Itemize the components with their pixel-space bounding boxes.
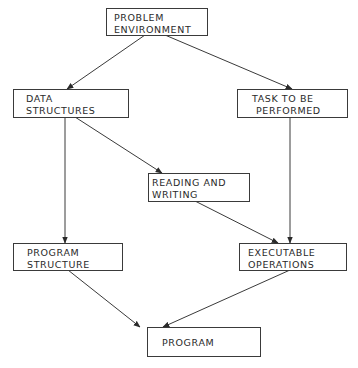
- edge-reading-writing-to-executable-operations: [195, 201, 278, 243]
- node-label-line: EXECUTABLE: [248, 247, 346, 259]
- node-label-line: READING AND: [152, 177, 249, 189]
- node-reading-and-writing: READING AND WRITING: [148, 173, 250, 202]
- edge-program-structure-to-program: [68, 270, 140, 327]
- node-program-structure: PROGRAM STRUCTURE: [13, 243, 123, 271]
- edge-data-structures-to-reading-writing: [75, 117, 162, 173]
- node-label-line: ENVIRONMENT: [114, 24, 207, 36]
- edge-problem-environment-to-data-structures: [67, 35, 145, 89]
- node-label-line: WRITING: [152, 189, 249, 201]
- node-label-line: PROGRAM: [162, 337, 260, 349]
- node-data-structures: DATA STRUCTURES: [13, 89, 129, 118]
- node-label-line: PROBLEM: [114, 12, 207, 24]
- node-executable-operations: EXECUTABLE OPERATIONS: [239, 243, 347, 271]
- node-label-line: PROGRAM: [27, 247, 122, 259]
- flowchart-canvas: PROBLEM ENVIRONMENT DATA STRUCTURES TASK…: [0, 0, 358, 368]
- node-program: PROGRAM: [147, 327, 261, 357]
- node-label-line: PERFORMED: [252, 105, 347, 117]
- node-label-line: STRUCTURE: [27, 259, 122, 271]
- edge-executable-operations-to-program: [163, 270, 290, 327]
- node-problem-environment: PROBLEM ENVIRONMENT: [106, 8, 208, 36]
- node-label-line: STRUCTURES: [26, 105, 128, 117]
- node-label-line: OPERATIONS: [248, 259, 346, 271]
- node-label-line: TASK TO BE: [252, 93, 347, 105]
- edge-problem-environment-to-task: [165, 35, 292, 89]
- node-label-line: DATA: [26, 93, 128, 105]
- node-task-to-be-performed: TASK TO BE PERFORMED: [237, 89, 348, 118]
